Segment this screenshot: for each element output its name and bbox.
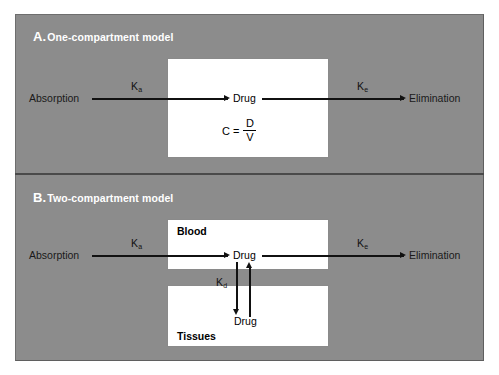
absorption-rate-constant-b: Ka: [131, 237, 142, 249]
formula-fraction: D V: [243, 118, 256, 143]
ka-subscript-b: a: [138, 243, 142, 250]
elimination-arrowhead-a: [400, 95, 406, 101]
absorption-arrowhead-a: [224, 95, 230, 101]
drug-label-tissues: Drug: [234, 315, 257, 327]
elimination-arrowhead-b: [400, 252, 406, 258]
formula-numerator: D: [244, 118, 256, 130]
elimination-arrow-line-a: [262, 98, 404, 100]
distribution-rate-constant: Kd: [216, 276, 227, 288]
ke-subscript-b: e: [364, 243, 368, 250]
drug-label-blood: Drug: [233, 249, 256, 261]
panel-b-title-text: Two-compartment model: [47, 192, 173, 204]
panel-b-title: B.Two-compartment model: [33, 190, 173, 205]
ka-subscript-a: a: [138, 86, 142, 93]
panel-a-letter: A.: [33, 29, 46, 44]
ke-symbol-a: K: [357, 80, 364, 92]
elimination-label-b: Elimination: [409, 249, 460, 261]
distribution-arrowhead-up: [246, 262, 252, 268]
kd-symbol: K: [216, 276, 223, 288]
panel-a-title: A.One-compartment model: [33, 29, 174, 44]
distribution-arrow-line-down: [236, 262, 238, 311]
formula-lhs: C: [222, 125, 230, 137]
elimination-rate-constant-b: Ke: [357, 237, 368, 249]
ka-symbol-a: K: [131, 80, 138, 92]
absorption-label-b: Absorption: [29, 249, 79, 261]
absorption-arrow-line-a: [92, 98, 228, 100]
tissues-compartment-label: Tissues: [177, 330, 216, 342]
pharmacokinetics-figure: A.One-compartment model Absorption Ka Dr…: [0, 0, 499, 375]
ke-subscript-a: e: [364, 86, 368, 93]
kd-subscript: d: [223, 282, 227, 289]
absorption-arrowhead-b: [224, 252, 230, 258]
drug-label-single-compartment: Drug: [233, 92, 256, 104]
panel-a-title-text: One-compartment model: [47, 31, 173, 43]
absorption-arrow-line-b: [92, 255, 228, 257]
absorption-label-a: Absorption: [29, 92, 79, 104]
elimination-rate-constant-a: Ke: [357, 80, 368, 92]
blood-compartment-label: Blood: [177, 225, 207, 237]
ke-symbol-b: K: [357, 237, 364, 249]
formula-equals: =: [233, 125, 239, 137]
concentration-formula: C = D V: [222, 118, 256, 143]
formula-denominator: V: [244, 131, 255, 143]
elimination-label-a: Elimination: [409, 92, 460, 104]
absorption-rate-constant-a: Ka: [131, 80, 142, 92]
panel-b-letter: B.: [33, 190, 46, 205]
distribution-arrow-line-up: [249, 268, 251, 317]
ka-symbol-b: K: [131, 237, 138, 249]
elimination-arrow-line-b: [262, 255, 404, 257]
